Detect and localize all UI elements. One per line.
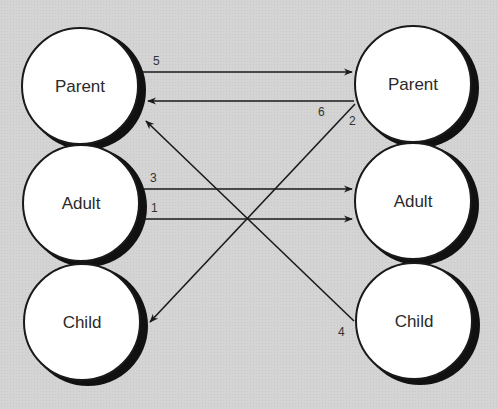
right-child-circle: Child <box>356 263 480 385</box>
left-ego-states: Parent Adult Child <box>22 28 148 386</box>
left-child-label: Child <box>63 313 102 332</box>
right-parent-label: Parent <box>388 75 438 94</box>
left-adult-circle: Adult <box>23 145 147 267</box>
number-6: 6 <box>318 105 325 119</box>
right-ego-states: Parent Adult Child <box>355 26 480 385</box>
transaction-numbers: 5 6 3 1 2 4 <box>150 54 356 339</box>
right-child-label: Child <box>395 312 434 331</box>
diagram-canvas: Parent Adult Child Parent Adult <box>0 0 498 409</box>
number-1: 1 <box>151 201 158 215</box>
right-parent-circle: Parent <box>355 26 479 148</box>
number-4: 4 <box>338 325 345 339</box>
arrow-2 <box>150 104 355 322</box>
right-adult-circle: Adult <box>355 143 479 265</box>
ego-state-diagram: Parent Adult Child Parent Adult <box>0 0 498 409</box>
number-5: 5 <box>153 54 160 68</box>
number-2: 2 <box>349 114 356 128</box>
left-parent-label: Parent <box>55 77 105 96</box>
right-adult-label: Adult <box>394 192 433 211</box>
left-child-circle: Child <box>24 264 148 386</box>
number-3: 3 <box>150 171 157 185</box>
left-adult-label: Adult <box>62 194 101 213</box>
arrow-4 <box>146 121 354 321</box>
left-parent-circle: Parent <box>22 28 146 150</box>
